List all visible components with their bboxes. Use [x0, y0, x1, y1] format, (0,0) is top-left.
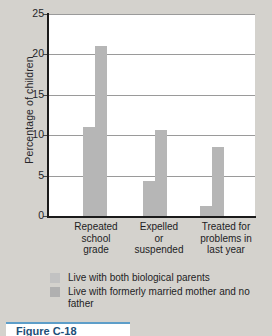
- y-axis-tick-label: 0: [18, 209, 44, 221]
- legend-item: Live with formerly married mother and no…: [50, 286, 268, 310]
- figure-caption-text: Figure C-18: [16, 325, 77, 336]
- bar: [83, 127, 95, 216]
- figure-caption-strip: Figure C-18: [6, 322, 130, 336]
- x-axis-category-label-line: problems in: [192, 233, 260, 245]
- legend-swatch: [50, 273, 60, 283]
- x-axis-category-label: Repeatedschoolgrade: [62, 221, 130, 256]
- legend-label: Live with formerly married mother and no…: [68, 286, 268, 310]
- y-axis-tick-label: 5: [18, 169, 44, 181]
- bar: [143, 181, 155, 216]
- gridline: [48, 95, 255, 96]
- y-axis-tick-label: 20: [18, 47, 44, 59]
- bar: [155, 130, 167, 216]
- y-axis-line: [47, 13, 49, 218]
- x-axis-category-label: Treated forproblems inlast year: [192, 221, 260, 256]
- x-axis-category-label-line: Repeated: [62, 221, 130, 233]
- x-axis-category-label-line: suspended: [128, 244, 190, 256]
- x-axis-category-label-line: school: [62, 233, 130, 245]
- x-axis-category-label-line: Treated for: [192, 221, 260, 233]
- gridline: [48, 54, 255, 55]
- gridline: [48, 14, 255, 15]
- x-axis-line: [47, 216, 256, 218]
- bar: [212, 147, 224, 216]
- y-axis-tick-label: 15: [18, 88, 44, 100]
- legend-label: Live with both biological parents: [68, 272, 210, 284]
- legend: Live with both biological parentsLive wi…: [50, 272, 268, 311]
- x-axis-category-label-line: Expelled: [128, 221, 190, 233]
- x-axis-category-label: Expelledorsuspended: [128, 221, 190, 256]
- bar: [95, 46, 107, 216]
- y-axis-tick-label: 25: [18, 7, 44, 19]
- x-axis-category-label-line: last year: [192, 244, 260, 256]
- legend-item: Live with both biological parents: [50, 272, 268, 284]
- y-axis-tick-label: 10: [18, 128, 44, 140]
- x-axis-category-label-line: grade: [62, 244, 130, 256]
- bar: [200, 206, 212, 216]
- x-axis-category-label-line: or: [128, 233, 190, 245]
- gridline: [48, 135, 255, 136]
- legend-swatch: [50, 287, 60, 297]
